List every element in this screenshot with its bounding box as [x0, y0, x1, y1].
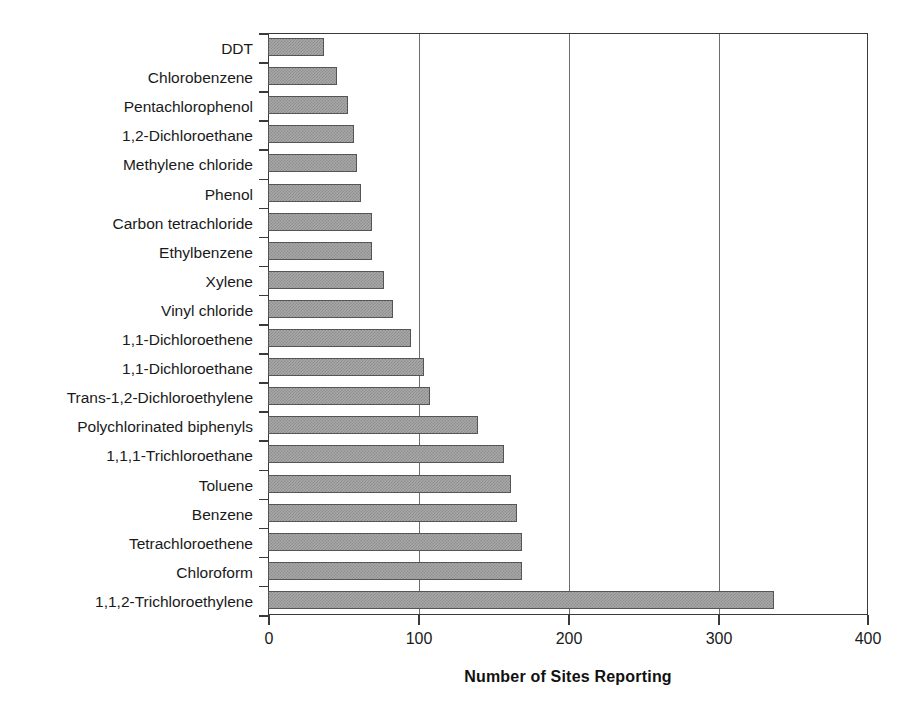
x-tick-label-100: 100 [406, 631, 433, 647]
x-axis: 0 100 200 300 400 [0, 0, 907, 714]
bar-chart: DDT Chlorobenzene Pentachlorophenol 1,2-… [0, 0, 907, 714]
x-tick [418, 615, 420, 625]
x-tick [867, 615, 869, 625]
x-tick [718, 615, 720, 625]
x-tick-label-0: 0 [265, 631, 274, 647]
x-tick-label-400: 400 [855, 631, 882, 647]
x-tick-label-300: 300 [706, 631, 733, 647]
x-tick-label-200: 200 [556, 631, 583, 647]
x-tick [568, 615, 570, 625]
x-tick [268, 615, 270, 625]
x-axis-title: Number of Sites Reporting [268, 668, 868, 686]
